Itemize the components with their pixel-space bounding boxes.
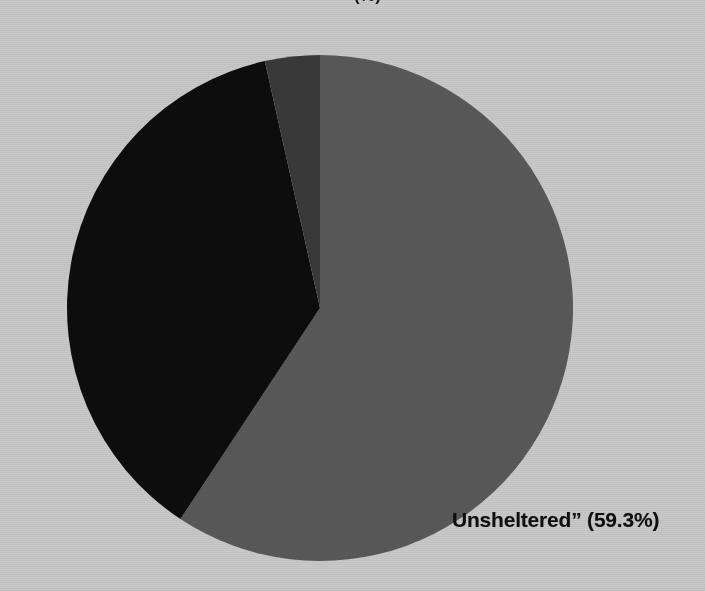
slice-label-unsheltered: Unsheltered” (59.3%) (452, 508, 659, 532)
pie-slice-group (67, 55, 573, 561)
chart-canvas: (%) Unsheltered” (59.3%) (0, 0, 705, 591)
pie-chart (0, 0, 705, 591)
